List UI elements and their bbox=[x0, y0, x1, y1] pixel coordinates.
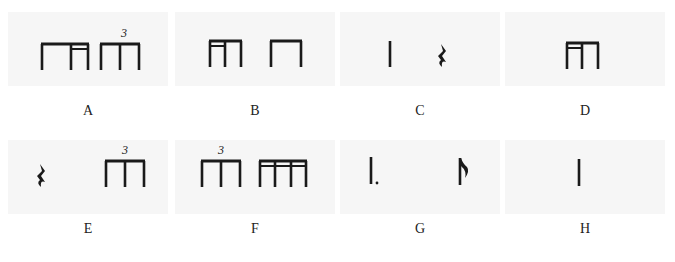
eighth-flag-icon bbox=[461, 158, 468, 178]
rhythm-notation-a bbox=[8, 12, 168, 86]
rhythm-notation-g bbox=[340, 140, 500, 214]
rhythm-notation-b bbox=[175, 12, 335, 86]
option-label: D bbox=[505, 103, 665, 119]
option-label: G bbox=[340, 221, 500, 237]
option-label: C bbox=[340, 103, 500, 119]
tuplet-number: 3 bbox=[122, 143, 128, 158]
option-label: H bbox=[505, 221, 665, 237]
rhythm-notation-d bbox=[505, 12, 665, 86]
option-label: E bbox=[8, 221, 168, 237]
option-label: A bbox=[8, 103, 168, 119]
option-label: B bbox=[175, 103, 335, 119]
tuplet-number: 3 bbox=[121, 26, 127, 41]
quarter-rest-icon bbox=[37, 164, 45, 187]
rhythm-notation-f bbox=[175, 140, 335, 214]
rhythm-notation-h bbox=[505, 140, 665, 214]
quarter-rest-icon bbox=[438, 44, 446, 67]
option-label: F bbox=[175, 221, 335, 237]
tuplet-number: 3 bbox=[218, 143, 224, 158]
rhythm-notation-c bbox=[340, 12, 500, 86]
augmentation-dot-icon bbox=[376, 182, 379, 185]
rhythm-notation-e bbox=[8, 140, 168, 214]
